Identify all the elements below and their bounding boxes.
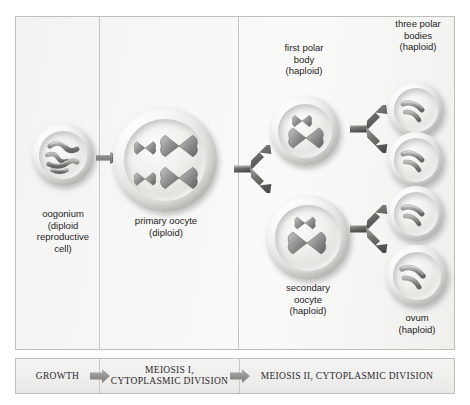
phase-bar: GROWTH MEIOSIS I, CYTOPLASMIC DIVISION (15, 358, 455, 394)
cell-secondary-oocyte (266, 196, 350, 280)
phase-meiosis-2: MEIOSIS II, CYTOPLASMIC DIVISION (240, 359, 454, 393)
phase-meiosis-1: MEIOSIS I, CYTOPLASMIC DIVISION (100, 359, 240, 393)
oogenesis-diagram: oogonium (diploid reproductive cell) (0, 0, 470, 405)
arrow-meiosis-2-branch-lower (350, 205, 390, 253)
label-oogonium: oogonium (diploid reproductive cell) (14, 208, 112, 254)
phase-meiosis-1-line1: MEIOSIS I, (145, 365, 194, 376)
phase-meiosis-1-line2: CYTOPLASMIC DIVISION (111, 376, 228, 387)
phase-arrow-2 (229, 358, 251, 394)
chromosomes-curved (388, 82, 444, 138)
label-secondary-oocyte-line1: secondary (262, 282, 354, 294)
label-oogonium-line2: (diploid (14, 220, 112, 232)
label-three-polar-bodies-line3: (haploid) (372, 41, 464, 53)
label-ovum: ovum (haploid) (371, 312, 463, 335)
label-first-polar-body-line2: body (258, 54, 350, 66)
label-secondary-oocyte: secondary oocyte (haploid) (262, 282, 354, 317)
label-primary-oocyte: primary oocyte (diploid) (110, 215, 222, 238)
chromosomes-curved (386, 245, 448, 307)
label-oogonium-line3: reproductive (14, 231, 112, 243)
label-primary-oocyte-line2: (diploid) (110, 227, 222, 239)
chromosomes-x-shaped (113, 108, 217, 212)
phase-meiosis-2-label: MEIOSIS II, CYTOPLASMIC DIVISION (261, 371, 434, 382)
label-first-polar-body-line1: first polar (258, 42, 350, 54)
cell-polar-body-2 (388, 132, 444, 188)
label-secondary-oocyte-line3: (haploid) (262, 305, 354, 317)
stage-divider-1 (99, 17, 100, 349)
label-secondary-oocyte-line2: oocyte (262, 294, 354, 306)
chromosomes-x-shaped (266, 196, 350, 280)
label-ovum-line1: ovum (371, 312, 463, 324)
label-three-polar-bodies-line1: three polar (372, 18, 464, 30)
label-first-polar-body: first polar body (haploid) (258, 42, 350, 77)
cell-first-polar-body (270, 96, 340, 166)
chromosomes-wavy (32, 124, 94, 186)
cell-oogonium (32, 124, 94, 186)
label-primary-oocyte-line1: primary oocyte (110, 215, 222, 227)
cell-polar-body-3 (388, 186, 444, 242)
label-oogonium-line1: oogonium (14, 208, 112, 220)
label-first-polar-body-line3: (haploid) (258, 65, 350, 77)
phase-growth-label: GROWTH (36, 371, 80, 382)
arrow-meiosis-2-branch-upper (350, 105, 390, 153)
phase-growth: GROWTH (16, 359, 100, 393)
cell-ovum (386, 245, 448, 307)
chromosomes-curved (388, 186, 444, 242)
phase-arrow-1 (89, 358, 111, 394)
label-three-polar-bodies: three polar bodies (haploid) (372, 18, 464, 53)
chromosomes-x-shaped (270, 96, 340, 166)
cell-polar-body-1 (388, 82, 444, 138)
chromosomes-curved (388, 132, 444, 188)
arrow-meiosis-1-branch (234, 145, 274, 193)
label-ovum-line2: (haploid) (371, 324, 463, 336)
cell-primary-oocyte (113, 108, 217, 212)
label-oogonium-line4: cell) (14, 243, 112, 255)
label-three-polar-bodies-line2: bodies (372, 30, 464, 42)
